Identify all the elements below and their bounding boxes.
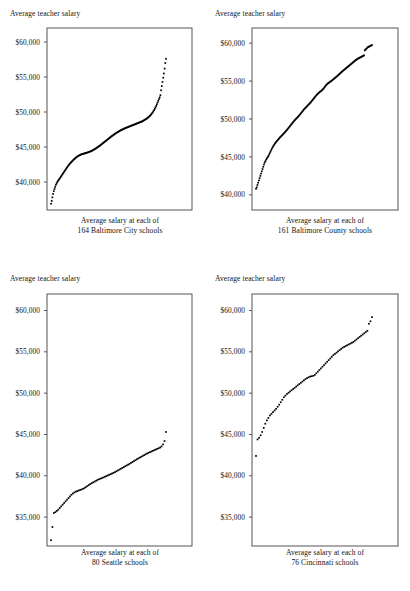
data-point (117, 470, 119, 472)
plot-area-baltimore-county: $40,000$45,000$50,000$55,000$60,000 (205, 0, 410, 215)
data-point (350, 343, 352, 345)
plot-area-seattle: $35,000$40,000$45,000$50,000$55,000$60,0… (0, 265, 205, 550)
data-point (323, 364, 325, 366)
data-point (297, 384, 299, 386)
data-point (81, 489, 83, 491)
data-point (331, 356, 333, 358)
y-axis-tick-label: $55,000 (16, 73, 41, 82)
y-axis-tick-label: $55,000 (221, 77, 246, 86)
data-point (139, 457, 141, 459)
data-point (264, 162, 266, 164)
data-point (260, 434, 262, 436)
data-point (78, 490, 80, 492)
panel-baltimore-county: Average teacher salary $40,000$45,000$50… (205, 0, 410, 250)
data-point (60, 505, 62, 507)
data-point (261, 431, 263, 433)
data-point (255, 455, 257, 457)
data-point (263, 427, 265, 429)
data-point (300, 382, 302, 384)
data-point (262, 168, 264, 170)
data-point (120, 468, 122, 470)
data-point (73, 492, 75, 494)
data-point (110, 473, 112, 475)
data-point (255, 188, 257, 190)
data-point (62, 504, 64, 506)
panel-baltimore-city: Average teacher salary $40,000$45,000$50… (0, 0, 205, 250)
data-point (272, 411, 274, 413)
data-point (162, 444, 164, 446)
data-point (359, 336, 361, 338)
data-point (260, 175, 262, 177)
y-axis-tick-label: $40,000 (221, 190, 246, 199)
y-axis-tick-label: $50,000 (16, 389, 41, 398)
y-axis-tick-label: $40,000 (221, 471, 246, 480)
data-point (149, 451, 151, 453)
data-point (116, 470, 118, 472)
data-point (119, 469, 121, 471)
xaxis-caption-line1: Average salary at each of (252, 548, 398, 558)
data-point (345, 345, 347, 347)
y-axis-tick-label: $60,000 (16, 38, 41, 47)
four-panel-salary-figure: Average teacher salary $40,000$45,000$50… (0, 0, 410, 591)
data-point (285, 395, 287, 397)
data-point (281, 399, 283, 401)
data-point (269, 415, 271, 417)
data-point (68, 497, 70, 499)
y-axis-tick-label: $60,000 (221, 39, 246, 48)
data-point (51, 200, 53, 202)
data-point (84, 487, 86, 489)
data-point (353, 341, 355, 343)
data-point (158, 98, 160, 100)
data-point (315, 372, 317, 374)
data-point-series (255, 316, 373, 457)
data-point (154, 449, 156, 451)
data-point (69, 496, 71, 498)
data-point (57, 509, 59, 511)
data-point (161, 85, 163, 87)
y-axis-tick-label: $45,000 (221, 153, 246, 162)
data-point (164, 62, 166, 64)
data-point (160, 94, 162, 96)
data-point (286, 393, 288, 395)
data-point (326, 361, 328, 363)
y-axis-tick-label: $35,000 (221, 513, 246, 522)
data-point (111, 473, 113, 475)
y-axis-tick-label: $40,000 (16, 471, 41, 480)
data-point (161, 446, 163, 448)
data-point (365, 331, 367, 333)
data-point (265, 160, 267, 162)
data-point (164, 440, 166, 442)
data-point (268, 417, 270, 419)
data-point (66, 499, 68, 501)
data-point (314, 374, 316, 376)
data-point (332, 354, 334, 356)
data-point (50, 539, 52, 541)
data-point (308, 376, 310, 378)
data-point (329, 358, 331, 360)
data-point (136, 458, 138, 460)
data-point (108, 474, 110, 476)
data-point-series (255, 44, 373, 189)
data-point (159, 447, 161, 449)
data-point (275, 408, 277, 410)
data-point (292, 388, 294, 390)
data-point (336, 352, 338, 354)
data-point (262, 166, 264, 168)
data-point (322, 366, 324, 368)
data-point (266, 420, 268, 422)
data-point (283, 396, 285, 398)
data-point (163, 73, 165, 75)
plot-frame (47, 28, 192, 210)
y-axis-tick-label: $55,000 (16, 347, 41, 356)
data-point (298, 383, 300, 385)
y-axis-tick-label: $55,000 (221, 347, 246, 356)
data-point (271, 413, 273, 415)
data-point (114, 471, 116, 473)
data-point (129, 463, 131, 465)
data-point (303, 379, 305, 381)
data-point (257, 182, 259, 184)
data-point (370, 320, 372, 322)
xaxis-caption-line1: Average salary at each of (252, 216, 398, 226)
data-point (257, 184, 259, 186)
data-point (325, 363, 327, 365)
